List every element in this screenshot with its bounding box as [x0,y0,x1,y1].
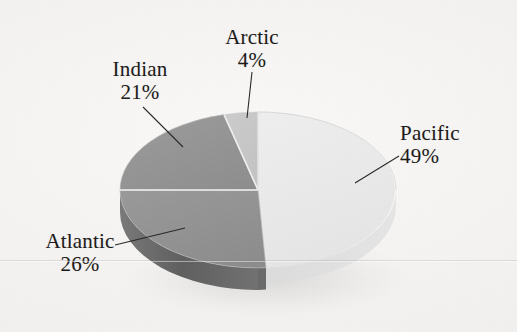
leader-line-arctic [247,72,252,118]
pie-label-pacific-percent: 49% [400,145,510,168]
pie-label-atlantic: Atlantic 26% [10,230,150,275]
pie-label-arctic-percent: 4% [196,49,308,72]
pie-label-indian-percent: 21% [78,81,202,104]
pie-label-indian-name: Indian [78,58,202,81]
pie-label-arctic: Arctic 4% [196,26,308,71]
pie-label-atlantic-percent: 26% [10,253,150,276]
pie-label-arctic-name: Arctic [196,26,308,49]
pie-label-pacific: Pacific 49% [400,122,510,167]
pie-label-pacific-name: Pacific [400,122,510,145]
pie-label-atlantic-name: Atlantic [10,230,150,253]
pie-chart-figure: Arctic 4% Indian 21% Pacific 49% Atlanti… [0,0,517,332]
pie-label-indian: Indian 21% [78,58,202,103]
pie-side-wall-atlantic-edge [258,268,266,290]
